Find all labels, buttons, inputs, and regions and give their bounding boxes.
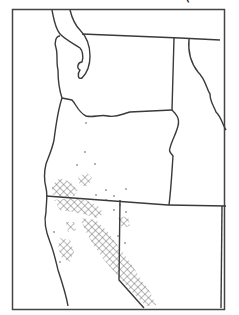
range-map: Western United States (Pacific Northwest…: [0, 0, 239, 315]
map-region-label: Western United States (Pacific Northwest…: [0, 0, 239, 4]
nv-id-border: [168, 205, 226, 206]
nv-east-border: [221, 206, 222, 308]
